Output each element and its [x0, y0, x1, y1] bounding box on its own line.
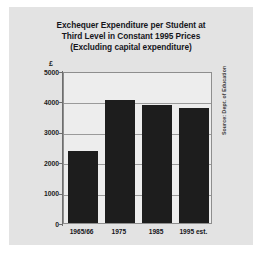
chart-page: Exchequer Expenditure per Student at Thi… — [0, 0, 262, 260]
y-axis-tick-label: 0 — [25, 221, 59, 228]
figure-card: Exchequer Expenditure per Student at Thi… — [9, 7, 253, 245]
y-axis-tick-label: 3000 — [25, 129, 59, 136]
plot-area — [63, 72, 212, 224]
y-axis-tick-label: 2000 — [25, 160, 59, 167]
bar — [105, 100, 135, 223]
bar-series — [64, 73, 211, 223]
source-note: Source: Dept. of Education — [221, 66, 227, 135]
y-axis-tick-mark — [59, 224, 63, 225]
y-axis-tick-label: 1000 — [25, 190, 59, 197]
y-axis-tick-label: 5000 — [25, 69, 59, 76]
bar — [142, 105, 172, 223]
y-axis-tick-label: 4000 — [25, 99, 59, 106]
bar — [68, 151, 98, 223]
y-axis-tick-labels: 500040003000200010000 — [21, 7, 59, 245]
x-axis-tick-label: 1995 est. — [167, 228, 219, 236]
bar — [179, 108, 209, 223]
